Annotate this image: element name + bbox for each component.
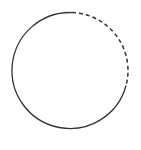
dashed-arc — [72, 13, 128, 86]
circle-diagram — [0, 0, 141, 150]
solid-arc — [12, 13, 126, 129]
